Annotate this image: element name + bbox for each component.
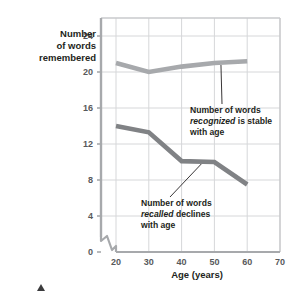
y-tick-label-16: 16 bbox=[83, 103, 93, 113]
annotation-recognized-line-3: with age bbox=[189, 127, 225, 137]
x-tick-label-60: 60 bbox=[242, 257, 252, 267]
annotation-recognized-line-1: Number of words bbox=[190, 105, 261, 115]
chart-figure: 04812162024 203040506070 Number of words… bbox=[0, 0, 300, 294]
x-tick-label-70: 70 bbox=[275, 257, 285, 267]
y-tick-label-0: 0 bbox=[88, 247, 93, 257]
y-axis-title-line-2: of words bbox=[56, 40, 96, 51]
x-tick-label-20: 20 bbox=[111, 257, 121, 267]
annotation-recalled-run-plain-2: declines bbox=[174, 209, 211, 219]
annotation-recognized-run-plain: Number of words bbox=[190, 105, 261, 115]
x-axis-title: Age (years) bbox=[171, 269, 223, 280]
y-tick-label-4: 4 bbox=[88, 211, 93, 221]
triangle-marker-icon bbox=[37, 284, 45, 291]
annotation-recalled-run-plain: Number of words bbox=[141, 198, 212, 208]
annotation-recognized-line-2: recognized is stable bbox=[190, 116, 272, 126]
annotation-recognized-run-italic: recognized bbox=[190, 116, 236, 126]
x-tick-label-50: 50 bbox=[209, 257, 219, 267]
x-tick-label-30: 30 bbox=[144, 257, 154, 267]
memory-line-chart: 04812162024 203040506070 Number of words… bbox=[0, 0, 300, 294]
y-tick-label-12: 12 bbox=[83, 139, 93, 149]
y-tick-labels: 04812162024 bbox=[83, 31, 93, 257]
y-axis-title-line-3: remembered bbox=[39, 52, 96, 63]
y-tick-label-8: 8 bbox=[88, 175, 93, 185]
annotation-recalled-line-3: with age bbox=[140, 220, 176, 230]
y-axis-title: Number of words remembered bbox=[39, 28, 96, 63]
annotation-recalled-line-2: recalled declines bbox=[141, 209, 210, 219]
annotation-recognized-run-plain: with age bbox=[189, 127, 225, 137]
x-tick-label-40: 40 bbox=[177, 257, 187, 267]
x-tick-labels: 203040506070 bbox=[111, 257, 285, 267]
y-tick-label-20: 20 bbox=[83, 67, 93, 77]
annotation-recalled-run-plain: with age bbox=[140, 220, 176, 230]
y-axis-title-line-1: Number bbox=[60, 28, 96, 39]
annotation-recognized-run-plain-2: is stable bbox=[235, 116, 272, 126]
annotation-recalled-run-italic: recalled bbox=[141, 209, 174, 219]
annotation-recalled-line-1: Number of words bbox=[141, 198, 212, 208]
